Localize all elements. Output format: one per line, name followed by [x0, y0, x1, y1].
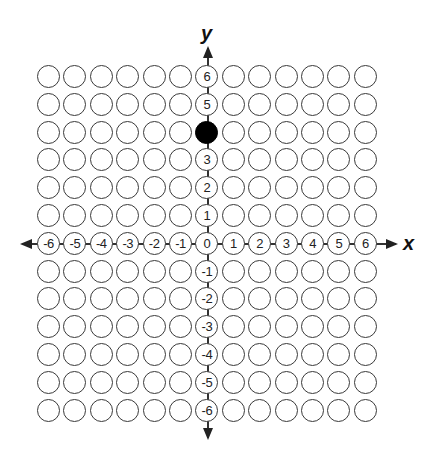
- grid-circle: [248, 371, 271, 394]
- x-tick--5: -5: [63, 232, 86, 255]
- grid-circle: [37, 93, 60, 116]
- grid-circle: [275, 371, 298, 394]
- grid-circle: [143, 315, 166, 338]
- grid-circle: [275, 204, 298, 227]
- grid-circle: [248, 399, 271, 422]
- x-tick--4: -4: [90, 232, 113, 255]
- grid-circle: [90, 260, 113, 283]
- grid-circle: [222, 287, 245, 310]
- grid-circle: [327, 287, 350, 310]
- grid-circle: [143, 93, 166, 116]
- grid-circle: [37, 65, 60, 88]
- grid-circle: [63, 65, 86, 88]
- grid-circle: [354, 260, 377, 283]
- grid-circle: [301, 343, 324, 366]
- grid-circle: [116, 260, 139, 283]
- x-tick--6: -6: [37, 232, 60, 255]
- grid-circle: [222, 176, 245, 199]
- grid-circle: [169, 260, 192, 283]
- grid-circle: [90, 287, 113, 310]
- grid-circle: [63, 93, 86, 116]
- grid-circle: [327, 148, 350, 171]
- grid-circle: [169, 148, 192, 171]
- grid-circle: [248, 176, 271, 199]
- grid-circle: [301, 371, 324, 394]
- grid-circle: [90, 93, 113, 116]
- grid-circle: [116, 148, 139, 171]
- x-tick-1: 1: [222, 232, 245, 255]
- grid-circle: [354, 93, 377, 116]
- grid-circle: [116, 343, 139, 366]
- grid-circle: [354, 204, 377, 227]
- grid-circle: [37, 121, 60, 144]
- grid-circle: [143, 176, 166, 199]
- grid-circle: [37, 399, 60, 422]
- grid-circle: [222, 93, 245, 116]
- plotted-point: [195, 121, 218, 144]
- grid-circle: [63, 260, 86, 283]
- grid-circle: [90, 399, 113, 422]
- grid-circle: [248, 148, 271, 171]
- grid-circle: [248, 260, 271, 283]
- grid-circle: [63, 315, 86, 338]
- y-tick-3: 3: [195, 148, 218, 171]
- grid-circle: [37, 176, 60, 199]
- grid-circle: [37, 343, 60, 366]
- grid-circle: [248, 65, 271, 88]
- y-tick--2: -2: [195, 287, 218, 310]
- y-tick--5: -5: [195, 371, 218, 394]
- grid-circle: [143, 260, 166, 283]
- x-axis-label: x: [403, 232, 414, 255]
- x-tick-0: 0: [195, 232, 218, 255]
- grid-circle: [301, 148, 324, 171]
- grid-circle: [116, 65, 139, 88]
- grid-circle: [222, 315, 245, 338]
- grid-circle: [143, 399, 166, 422]
- grid-circle: [354, 121, 377, 144]
- grid-circle: [301, 93, 324, 116]
- grid-circle: [327, 176, 350, 199]
- grid-circle: [354, 287, 377, 310]
- grid-circle: [248, 287, 271, 310]
- x-axis-left-arrow-icon: [20, 239, 32, 249]
- grid-circle: [275, 315, 298, 338]
- grid-circle: [275, 343, 298, 366]
- grid-circle: [63, 343, 86, 366]
- grid-circle: [116, 121, 139, 144]
- grid-circle: [327, 93, 350, 116]
- grid-circle: [37, 260, 60, 283]
- grid-circle: [248, 343, 271, 366]
- grid-circle: [354, 315, 377, 338]
- grid-circle: [301, 121, 324, 144]
- grid-circle: [169, 93, 192, 116]
- grid-circle: [222, 121, 245, 144]
- x-tick--1: -1: [169, 232, 192, 255]
- grid-circle: [222, 371, 245, 394]
- grid-circle: [327, 399, 350, 422]
- y-tick-6: 6: [195, 65, 218, 88]
- grid-circle: [169, 176, 192, 199]
- grid-circle: [143, 65, 166, 88]
- grid-circle: [301, 315, 324, 338]
- grid-circle: [275, 148, 298, 171]
- grid-circle: [63, 204, 86, 227]
- x-tick-2: 2: [248, 232, 271, 255]
- grid-circle: [143, 204, 166, 227]
- x-tick-4: 4: [301, 232, 324, 255]
- grid-circle: [222, 343, 245, 366]
- grid-circle: [169, 121, 192, 144]
- grid-circle: [301, 287, 324, 310]
- grid-circle: [169, 371, 192, 394]
- grid-circle: [301, 260, 324, 283]
- y-tick--3: -3: [195, 315, 218, 338]
- grid-circle: [169, 315, 192, 338]
- grid-circle: [143, 121, 166, 144]
- y-tick--4: -4: [195, 343, 218, 366]
- grid-circle: [143, 148, 166, 171]
- grid-circle: [354, 65, 377, 88]
- grid-circle: [116, 371, 139, 394]
- y-tick-2: 2: [195, 176, 218, 199]
- grid-circle: [37, 371, 60, 394]
- y-tick--6: -6: [195, 399, 218, 422]
- grid-circle: [327, 343, 350, 366]
